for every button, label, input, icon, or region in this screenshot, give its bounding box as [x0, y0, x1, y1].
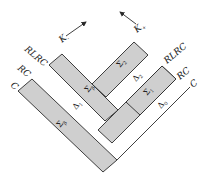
k-minus-arrow: [66, 22, 86, 36]
k-plus-arrow: [120, 12, 136, 24]
delta2-label: Δ2: [131, 71, 144, 84]
left-label-rlrc: RLRC: [22, 43, 50, 68]
delta0-label: Δ0: [156, 98, 169, 111]
delta1-label: Δ1: [71, 99, 84, 112]
k-minus-label: K-: [56, 31, 71, 46]
wedge-diagram: K- K+ RLRC RC C RLRC RC C Σβ Σβ Δ1 Σ2 Δ2…: [0, 0, 208, 181]
right-label-rlrc: RLRC: [161, 41, 189, 66]
left-label-rc: RC: [15, 62, 33, 79]
